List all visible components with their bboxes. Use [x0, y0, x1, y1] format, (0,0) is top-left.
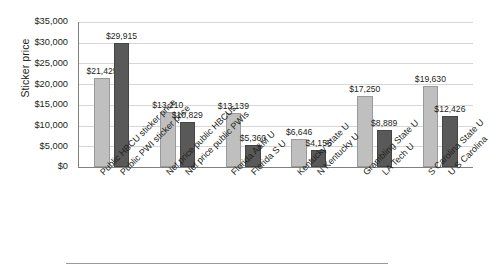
y-tick-label: $0 [58, 162, 68, 171]
x-axis-tick-labels: Public HBCU sticker pricePublic PWI stic… [78, 168, 472, 258]
y-tick-label: $10,000 [34, 121, 68, 130]
y-tick-label: $15,000 [34, 100, 68, 109]
bar [357, 96, 373, 167]
bar-value-label: $17,250 [343, 85, 387, 94]
bar-value-label: $8,889 [362, 119, 406, 128]
bar-value-label: $29,915 [100, 32, 144, 41]
footer-divider [66, 263, 388, 264]
bar [423, 86, 439, 167]
bar-value-label: $12,426 [428, 105, 472, 114]
bar-value-label: $19,630 [408, 75, 452, 84]
y-tick-label: $25,000 [34, 59, 68, 68]
y-tick-label: $30,000 [34, 38, 68, 47]
y-tick-label: $20,000 [34, 80, 68, 89]
bar [94, 78, 110, 167]
y-tick-label: $5,000 [40, 142, 68, 151]
y-tick-label: $35,000 [34, 17, 68, 26]
y-axis-tick-labels: $0$5,000$10,000$15,000$20,000$25,000$30,… [0, 22, 72, 167]
bar-value-label: $6,646 [277, 128, 321, 137]
